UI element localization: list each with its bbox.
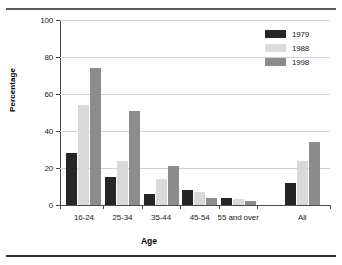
bar: [156, 179, 167, 205]
x-tick-mark: [257, 205, 258, 209]
figure-top-rule: [6, 8, 336, 10]
legend-item: 1979: [265, 27, 309, 41]
bar: [129, 111, 140, 205]
y-tick-label: 0: [49, 201, 53, 210]
bar: [285, 183, 296, 205]
x-tick-mark: [219, 205, 220, 209]
bar-group: [143, 20, 179, 205]
bar: [233, 199, 244, 205]
bar: [297, 161, 308, 205]
legend-label: 1988: [292, 44, 309, 53]
legend-label: 1979: [292, 30, 309, 39]
legend-item: 1998: [265, 55, 309, 69]
x-tick-mark: [103, 205, 104, 209]
y-tick-mark: [56, 20, 60, 21]
y-tick-mark: [56, 94, 60, 95]
y-tick-mark: [56, 57, 60, 58]
y-tick-label: 20: [45, 164, 54, 173]
x-category-label: All: [274, 213, 330, 223]
x-tick-mark: [180, 205, 181, 209]
x-axis-title-text: Age: [141, 236, 157, 246]
legend-swatch: [265, 44, 286, 52]
legend-swatch: [265, 30, 286, 38]
y-tick-label: 100: [40, 16, 53, 25]
bar: [194, 192, 205, 205]
y-tick-mark: [56, 168, 60, 169]
y-tick-label: 80: [45, 53, 54, 62]
legend: 197919881998: [265, 27, 309, 69]
bar: [144, 194, 155, 205]
bar: [105, 177, 116, 205]
y-tick-label: 60: [45, 90, 54, 99]
x-tick-mark: [330, 205, 331, 209]
x-tick-mark: [60, 205, 61, 209]
bar: [309, 142, 320, 205]
bar: [245, 201, 256, 205]
bar-group: [182, 20, 218, 205]
bar-group: [220, 20, 256, 205]
bar-group: [66, 20, 102, 205]
y-tick-mark: [56, 131, 60, 132]
y-axis-title: Percentage: [8, 68, 17, 112]
bar-group: [104, 20, 140, 205]
bar: [78, 105, 89, 205]
bar: [206, 198, 217, 205]
x-category-label: 55 and over: [210, 213, 266, 223]
x-tick-mark: [142, 205, 143, 209]
bar: [182, 190, 193, 205]
legend-item: 1988: [265, 41, 309, 55]
figure-bottom-rule: [6, 255, 336, 257]
bar: [117, 161, 128, 205]
x-axis-line: [60, 205, 331, 206]
bar: [221, 198, 232, 205]
chart-figure: Percentage 020406080100 16-2425-3435-444…: [0, 0, 342, 265]
x-axis-title: Age: [0, 236, 342, 246]
bar: [90, 68, 101, 205]
y-tick-label: 40: [45, 127, 54, 136]
legend-swatch: [265, 58, 286, 66]
bar: [66, 153, 77, 205]
bar: [168, 166, 179, 205]
legend-label: 1998: [292, 58, 309, 67]
